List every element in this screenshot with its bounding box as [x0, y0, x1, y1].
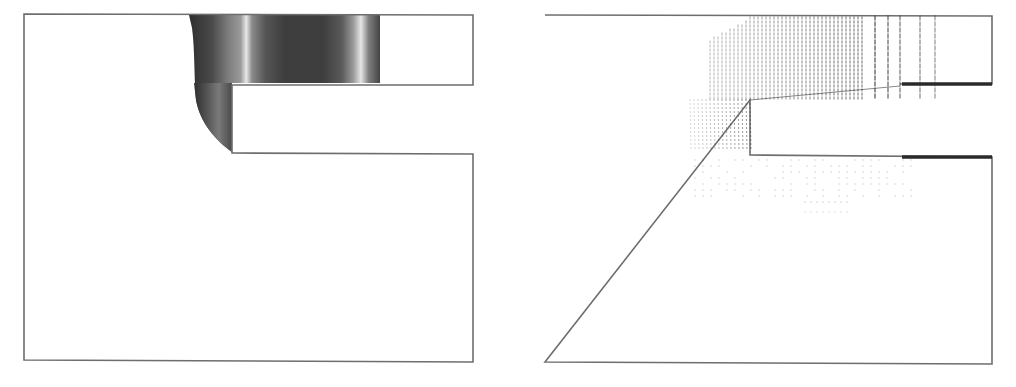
vector-field-canvas — [520, 0, 1016, 387]
contour-plot-panel — [0, 0, 500, 387]
domain-boundary — [545, 15, 992, 364]
vector-field-panel — [520, 0, 1016, 387]
contour-plot-canvas — [0, 0, 500, 387]
contour-region-lower — [194, 83, 232, 152]
velocity-vectors — [690, 16, 935, 214]
step-inner-top — [750, 86, 900, 100]
